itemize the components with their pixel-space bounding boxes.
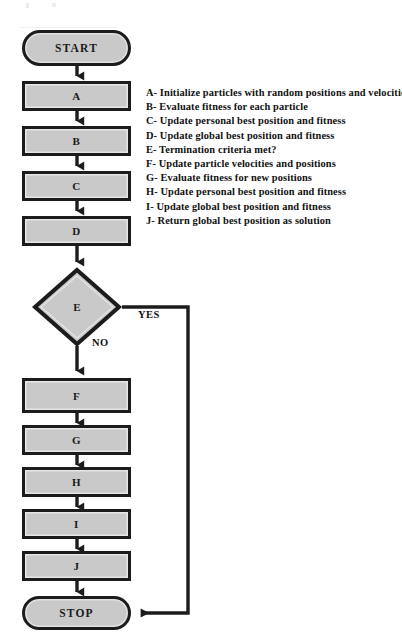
branch-label-no: NO bbox=[92, 337, 109, 348]
legend-item: J- Return global best position as soluti… bbox=[146, 214, 398, 228]
node-f-label: F bbox=[73, 390, 80, 402]
yes-branch-connector bbox=[122, 307, 188, 613]
legend-item: F- Update particle velocities and positi… bbox=[146, 157, 398, 171]
scan-speckle bbox=[26, 3, 29, 8]
node-b[interactable]: B bbox=[22, 126, 131, 156]
flowchart-canvas: START A B C D E YES NO F G H I J STOP bbox=[0, 0, 402, 635]
node-j-label: J bbox=[74, 560, 80, 572]
node-h-label: H bbox=[72, 476, 81, 488]
legend-item: H- Update personal best position and fit… bbox=[146, 185, 398, 199]
node-g[interactable]: G bbox=[22, 425, 131, 455]
node-start-label: START bbox=[55, 42, 98, 54]
node-i[interactable]: I bbox=[22, 509, 131, 539]
node-i-label: I bbox=[74, 518, 79, 530]
node-start[interactable]: START bbox=[22, 30, 131, 66]
branch-label-yes: YES bbox=[138, 309, 160, 320]
node-stop-label: STOP bbox=[59, 607, 94, 619]
legend-item: D- Update global best position and fitne… bbox=[146, 129, 398, 143]
node-stop[interactable]: STOP bbox=[22, 596, 131, 630]
node-a[interactable]: A bbox=[22, 81, 131, 111]
node-j[interactable]: J bbox=[22, 551, 131, 581]
legend-item: G- Evaluate fitness for new positions bbox=[146, 171, 398, 185]
diamond-shape bbox=[32, 267, 122, 347]
node-c[interactable]: C bbox=[22, 171, 131, 201]
node-h[interactable]: H bbox=[22, 467, 131, 497]
legend-item: I- Update global best position and fitne… bbox=[146, 200, 398, 214]
node-f[interactable]: F bbox=[22, 378, 131, 413]
legend-item: A- Initialize particles with random posi… bbox=[146, 86, 398, 100]
node-d-label: D bbox=[72, 225, 80, 237]
scan-speckle bbox=[52, 3, 56, 7]
node-g-label: G bbox=[72, 434, 81, 446]
node-d[interactable]: D bbox=[22, 216, 131, 246]
node-b-label: B bbox=[73, 135, 81, 147]
node-a-label: A bbox=[72, 90, 80, 102]
node-e[interactable]: E bbox=[32, 267, 122, 347]
legend: A- Initialize particles with random posi… bbox=[146, 86, 398, 228]
legend-item: E- Termination criteria met? bbox=[146, 143, 398, 157]
legend-item: C- Update personal best position and fit… bbox=[146, 114, 398, 128]
node-c-label: C bbox=[72, 180, 80, 192]
legend-item: B- Evaluate fitness for each particle bbox=[146, 100, 398, 114]
scan-speckle bbox=[20, 27, 116, 28]
